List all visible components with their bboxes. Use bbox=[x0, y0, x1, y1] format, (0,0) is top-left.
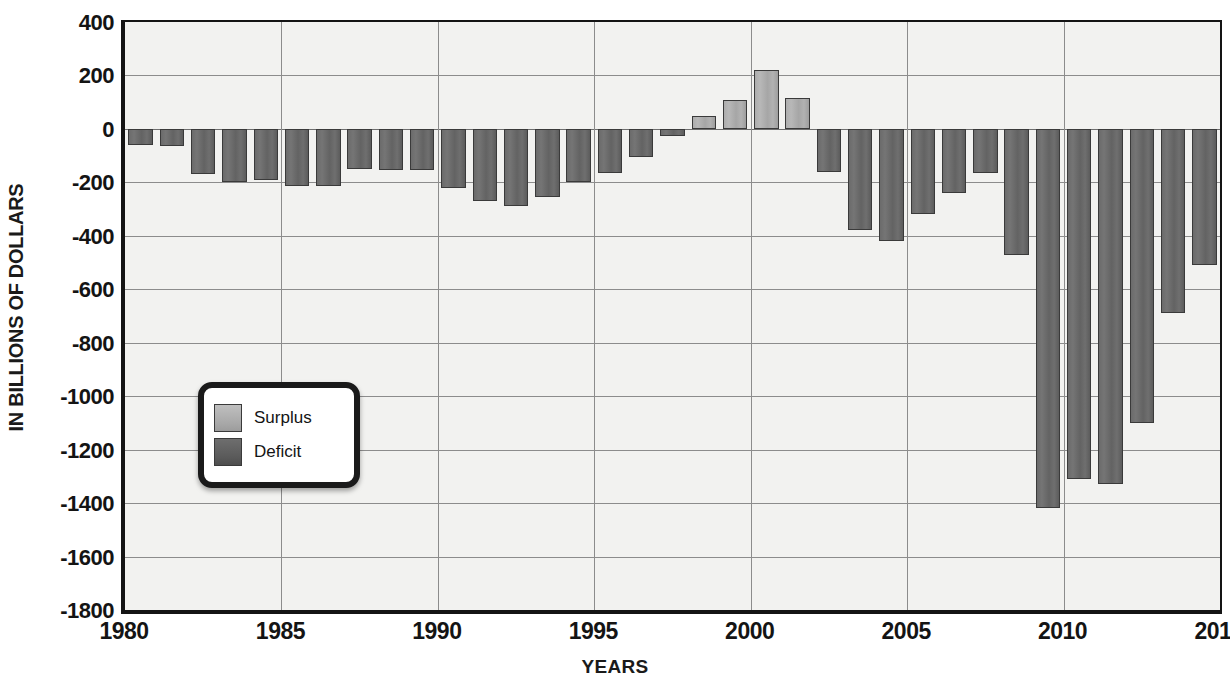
bar-2008 bbox=[1004, 129, 1028, 255]
bar-1991 bbox=[473, 129, 497, 201]
bar-1985 bbox=[285, 129, 309, 186]
y-axis-tick-labels: 4002000-200-400-600-800-1000-1200-1400-1… bbox=[34, 0, 120, 640]
bar-1996 bbox=[629, 129, 653, 157]
bar-2003 bbox=[848, 129, 872, 231]
y-tick-label: -600 bbox=[72, 277, 114, 303]
legend-label-surplus: Surplus bbox=[254, 408, 312, 428]
vertical-gridline bbox=[907, 22, 908, 610]
x-tick-label: 2000 bbox=[725, 618, 774, 645]
vertical-gridline bbox=[281, 22, 282, 610]
legend-swatch-surplus-icon bbox=[214, 404, 242, 432]
bar-1980 bbox=[128, 129, 152, 145]
y-tick-label: -800 bbox=[72, 331, 114, 357]
y-axis-title: IN BILLIONS OF DOLLARS bbox=[0, 0, 34, 614]
bar-1988 bbox=[379, 129, 403, 170]
plot-area bbox=[121, 20, 1222, 614]
plot-inner bbox=[125, 22, 1220, 610]
vertical-gridline bbox=[438, 22, 439, 610]
bar-1984 bbox=[254, 129, 278, 180]
y-tick-label: -1000 bbox=[60, 384, 114, 410]
bar-1981 bbox=[160, 129, 184, 146]
y-tick-label: 200 bbox=[79, 63, 114, 89]
bar-1999 bbox=[723, 100, 747, 129]
y-tick-label: -400 bbox=[72, 224, 114, 250]
bar-1982 bbox=[191, 129, 215, 174]
bar-1994 bbox=[566, 129, 590, 182]
horizontal-gridline bbox=[125, 75, 1220, 76]
chart-root: IN BILLIONS OF DOLLARS 4002000-200-400-6… bbox=[0, 0, 1230, 690]
vertical-gridline bbox=[751, 22, 752, 610]
y-tick-label: -1400 bbox=[60, 491, 114, 517]
bar-2011 bbox=[1098, 129, 1122, 484]
bar-2001 bbox=[785, 98, 809, 129]
bar-2000 bbox=[754, 70, 778, 129]
bar-2014 bbox=[1192, 129, 1216, 265]
legend-swatch-deficit-icon bbox=[214, 438, 242, 466]
bar-2013 bbox=[1161, 129, 1185, 313]
bar-2010 bbox=[1067, 129, 1091, 479]
x-tick-label: 1980 bbox=[99, 618, 148, 645]
vertical-gridline bbox=[1220, 22, 1221, 610]
legend-item-deficit: Deficit bbox=[214, 438, 346, 466]
x-tick-label: 1985 bbox=[256, 618, 305, 645]
vertical-gridline bbox=[594, 22, 595, 610]
bar-1993 bbox=[535, 129, 559, 197]
chart-legend: Surplus Deficit bbox=[198, 382, 360, 488]
bar-1992 bbox=[504, 129, 528, 207]
x-axis-tick-labels: 19801985199019952000200520102015 bbox=[0, 618, 1230, 652]
y-tick-label: -1200 bbox=[60, 438, 114, 464]
bar-2005 bbox=[911, 129, 935, 215]
bar-1990 bbox=[441, 129, 465, 188]
x-tick-label: 1990 bbox=[412, 618, 461, 645]
x-tick-label: 1995 bbox=[569, 618, 618, 645]
horizontal-gridline bbox=[125, 557, 1220, 558]
bar-2009 bbox=[1036, 129, 1060, 509]
y-axis-title-text: IN BILLIONS OF DOLLARS bbox=[6, 183, 29, 431]
bar-2002 bbox=[817, 129, 841, 172]
y-tick-label: 400 bbox=[79, 10, 114, 36]
bar-2004 bbox=[879, 129, 903, 241]
x-tick-label: 2010 bbox=[1038, 618, 1087, 645]
x-tick-label: 2005 bbox=[882, 618, 931, 645]
legend-label-deficit: Deficit bbox=[254, 442, 301, 462]
legend-item-surplus: Surplus bbox=[214, 404, 346, 432]
bar-2006 bbox=[942, 129, 966, 193]
bar-2007 bbox=[973, 129, 997, 173]
bar-1983 bbox=[222, 129, 246, 182]
bar-1998 bbox=[692, 116, 716, 129]
bar-1987 bbox=[347, 129, 371, 169]
bar-1989 bbox=[410, 129, 434, 170]
y-tick-label: 0 bbox=[102, 117, 114, 143]
bar-2012 bbox=[1130, 129, 1154, 423]
vertical-gridline bbox=[1064, 22, 1065, 610]
x-axis-title: YEARS bbox=[0, 656, 1230, 678]
bar-1997 bbox=[660, 129, 684, 136]
y-tick-label: -200 bbox=[72, 170, 114, 196]
bar-1986 bbox=[316, 129, 340, 186]
y-tick-label: -1600 bbox=[60, 545, 114, 571]
x-tick-label: 2015 bbox=[1194, 618, 1230, 645]
bar-1995 bbox=[598, 129, 622, 173]
